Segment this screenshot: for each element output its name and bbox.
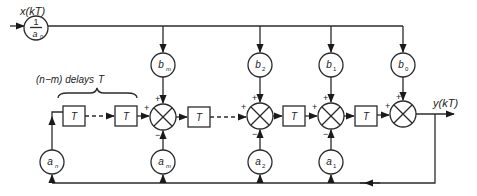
svg-text:+: + xyxy=(396,92,401,102)
svg-text:+: + xyxy=(252,93,257,103)
svg-text:+: + xyxy=(144,103,149,113)
svg-text:−: − xyxy=(323,129,328,139)
svg-text:a: a xyxy=(158,156,164,167)
svg-text:b: b xyxy=(398,59,404,70)
gain-denominator: a xyxy=(32,29,37,39)
svg-text:T: T xyxy=(71,111,78,122)
svg-text:T: T xyxy=(196,112,203,123)
block-diagram: x(kT) 1 a 0 b m b 2 b 1 b 0 (n− xyxy=(0,0,477,196)
svg-text:(n−m) delays: (n−m) delays xyxy=(36,74,94,85)
input-label: x(kT) xyxy=(19,5,45,17)
svg-text:T: T xyxy=(98,74,105,85)
svg-text:b: b xyxy=(326,59,332,70)
svg-text:T: T xyxy=(363,111,370,122)
svg-text:+: + xyxy=(323,93,328,103)
delay-brace xyxy=(58,88,137,98)
gain-node-bm: b m xyxy=(151,53,175,77)
svg-text:−: − xyxy=(252,129,257,139)
output-label: y(kT) xyxy=(432,97,458,109)
svg-text:+: + xyxy=(312,102,317,112)
summing-junction-m xyxy=(150,104,176,130)
svg-text:a: a xyxy=(47,156,53,167)
svg-text:−: − xyxy=(155,130,160,140)
summing-junction-1 xyxy=(318,103,344,129)
gain-node-b2: b 2 xyxy=(248,53,272,77)
svg-text:T: T xyxy=(123,111,130,122)
delay-group-annotation: (n−m) delays T xyxy=(36,74,137,98)
gain-numerator: 1 xyxy=(33,17,38,27)
svg-text:b: b xyxy=(158,59,164,70)
gain-node-b1: b 1 xyxy=(319,53,343,77)
svg-text:b: b xyxy=(255,59,261,70)
summing-junction-2 xyxy=(247,103,273,129)
gain-node-a2: a 2 xyxy=(248,150,272,174)
svg-text:a: a xyxy=(326,156,332,167)
gain-node-a1: a 1 xyxy=(319,150,343,174)
svg-text:+: + xyxy=(241,102,246,112)
summing-junction-0 xyxy=(390,101,416,127)
svg-text:+: + xyxy=(385,101,390,111)
gain-node-am: a m xyxy=(151,150,175,174)
gain-node-b0: b 0 xyxy=(391,53,415,77)
input-gain-node: 1 a 0 xyxy=(24,16,48,40)
gain-node-an: a n xyxy=(40,150,64,174)
svg-text:m: m xyxy=(166,66,171,72)
svg-text:+: + xyxy=(155,94,160,104)
svg-text:T: T xyxy=(291,111,298,122)
svg-text:a: a xyxy=(255,156,261,167)
svg-text:m: m xyxy=(166,163,171,169)
